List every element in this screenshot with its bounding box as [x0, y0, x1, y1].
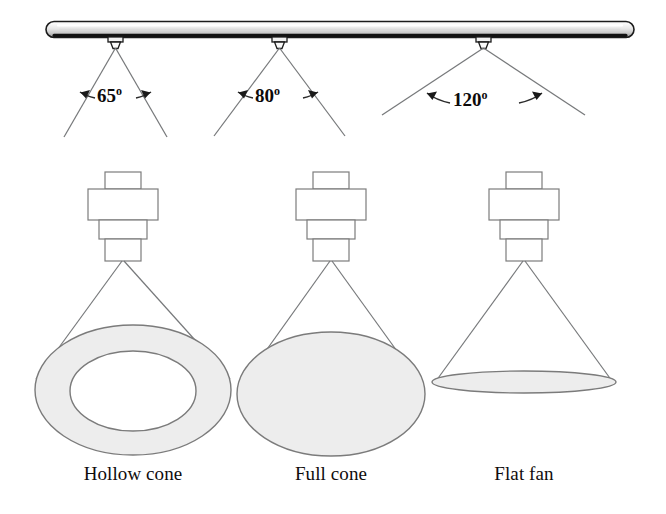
- degree-symbol-80: o: [274, 84, 280, 98]
- nozzle-1-outlet: [105, 239, 141, 261]
- nozzle-2-collar: [296, 189, 366, 220]
- nozzle-2-mid: [307, 220, 355, 239]
- flat-fan-group: [432, 172, 616, 393]
- header-nozzle-tip-2: [272, 37, 287, 49]
- full-cone-group: [237, 172, 425, 456]
- nozzle-3-cap: [506, 172, 542, 189]
- spray-lines-3: [436, 261, 612, 381]
- header-nozzle-tip-1: [108, 37, 123, 49]
- angle-value-120: 120: [453, 89, 482, 110]
- flat-fan-pattern: [432, 371, 616, 393]
- pattern-label-full-cone: Full cone: [231, 463, 431, 485]
- nozzle-body-1: [88, 172, 158, 261]
- nozzle-body-2: [296, 172, 366, 261]
- spray-3-left: [436, 261, 523, 381]
- angle-value-65: 65: [97, 85, 116, 106]
- angle-label-120: 120o: [453, 89, 488, 111]
- nozzle-3-mid: [500, 220, 548, 239]
- angle-value-80: 80: [255, 85, 274, 106]
- hollow-cone-group: [20, 172, 250, 465]
- cone-3-right-edge: [484, 48, 586, 115]
- header-pipe: [46, 22, 634, 38]
- nozzle-body-3: [489, 172, 559, 261]
- nozzle-3-collar: [489, 189, 559, 220]
- nozzle-2-cap: [313, 172, 349, 189]
- spray-3-right: [525, 261, 612, 381]
- diagram-canvas: [0, 0, 666, 514]
- hollow-cone-pattern: [20, 315, 250, 465]
- spray-header-assembly: [46, 22, 634, 138]
- pattern-label-hollow-cone: Hollow cone: [33, 463, 233, 485]
- angle-label-65: 65o: [97, 85, 122, 107]
- nozzle-2-outlet: [313, 239, 349, 261]
- nozzle-3-outlet: [506, 239, 542, 261]
- degree-symbol-65: o: [116, 84, 122, 98]
- nozzle-1-cap: [105, 172, 141, 189]
- spray-cone-lines: [64, 48, 585, 137]
- header-nozzle-tip-3: [476, 37, 491, 49]
- cone-1-right-edge: [116, 48, 168, 137]
- pattern-label-flat-fan: Flat fan: [434, 463, 614, 485]
- degree-symbol-120: o: [482, 88, 488, 102]
- spray-nozzle-diagram: 65o 80o 120o Hollow cone Full cone Flat …: [0, 0, 666, 514]
- nozzle-1-mid: [99, 220, 147, 239]
- full-cone-pattern: [237, 332, 425, 456]
- nozzle-1-collar: [88, 189, 158, 220]
- angle-label-80: 80o: [255, 85, 280, 107]
